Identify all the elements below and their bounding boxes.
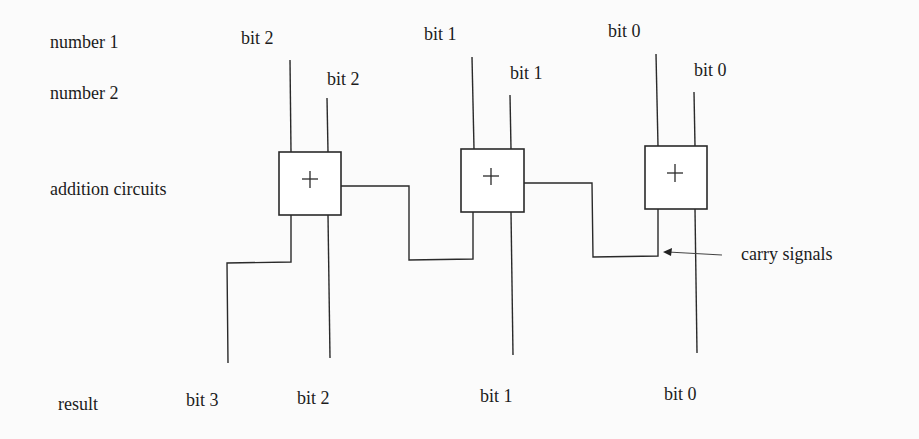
row-label-number1: number 1: [50, 33, 118, 51]
output-label-bit2: bit 2: [297, 389, 330, 407]
carry-wire-1-to-2: [341, 186, 473, 260]
input-wire-n1-bit1: [472, 57, 474, 149]
input-label-n1-bit1: bit 1: [424, 25, 457, 43]
input-label-n1-bit2: bit 2: [241, 29, 274, 47]
output-wire-bit3: [227, 215, 291, 363]
output-label-bit3: bit 3: [186, 391, 219, 409]
row-label-addition-circuits: addition circuits: [50, 180, 166, 198]
output-wire-bit1: [511, 212, 513, 355]
input-wire-n2-bit0: [694, 92, 695, 146]
carry-wire-0-to-1: [524, 183, 658, 257]
input-wire-n2-bit1: [510, 95, 511, 149]
output-label-bit0: bit 0: [664, 385, 697, 403]
row-label-result: result: [58, 395, 98, 413]
output-label-bit1: bit 1: [480, 387, 513, 405]
output-wire-bit2: [328, 215, 330, 358]
adder-box-bit1: [461, 149, 524, 212]
carry-signals-annotation: carry signals: [741, 245, 832, 263]
input-label-n2-bit0: bit 0: [694, 61, 727, 79]
ripple-carry-adder-diagram: number 1 number 2 addition circuits resu…: [0, 0, 919, 439]
input-wire-n1-bit2: [290, 60, 291, 152]
input-wire-n2-bit2: [327, 98, 328, 152]
input-wire-n1-bit0: [656, 54, 658, 146]
arrowhead-icon: [663, 248, 672, 256]
output-wire-bit0: [695, 209, 697, 353]
row-label-number2: number 2: [50, 84, 118, 102]
input-label-n1-bit0: bit 0: [608, 22, 641, 40]
input-label-n2-bit2: bit 2: [327, 70, 360, 88]
circuit-drawing: [0, 0, 919, 439]
input-label-n2-bit1: bit 1: [510, 64, 543, 82]
adder-box-bit0: [645, 146, 707, 209]
